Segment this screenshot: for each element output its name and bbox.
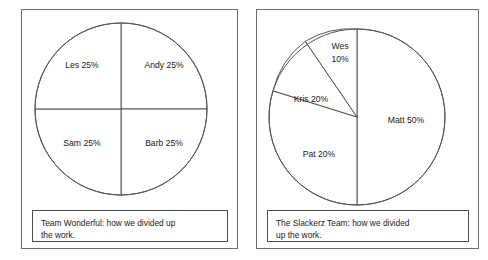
pie-label-wes-name: Wes xyxy=(331,41,348,51)
pie-label-wes-value: 10% xyxy=(331,54,349,64)
pie-label-sam: Sam 25% xyxy=(63,138,101,148)
caption-text: Team Wonderful: how we divided up the wo… xyxy=(41,217,219,241)
pie-label-barb: Barb 25% xyxy=(145,138,183,148)
pie-label-andy: Andy 25% xyxy=(144,60,184,70)
pie-label-matt: Matt 50% xyxy=(388,115,425,125)
pie-slice-sam xyxy=(35,109,121,195)
panel-team-wonderful: Les 25% Andy 25% Sam 25% Barb 25% Team W… xyxy=(21,9,238,249)
caption-team-wonderful: Team Wonderful: how we divided up the wo… xyxy=(32,210,228,242)
figure-root: Les 25% Andy 25% Sam 25% Barb 25% Team W… xyxy=(0,0,488,260)
pie-label-les: Les 25% xyxy=(65,60,99,70)
caption-slackerz-team: The Slackerz Team: how we divided up the… xyxy=(267,210,469,242)
pie-label-kris: Kris 20% xyxy=(294,94,329,104)
panel-slackerz-team: Matt 50% Pat 20% Kris 20% Wes 10% The Sl… xyxy=(256,9,479,249)
caption-text: The Slackerz Team: how we divided up the… xyxy=(276,217,460,241)
pie-label-pat: Pat 20% xyxy=(303,149,336,159)
pie-slice-barb xyxy=(121,109,207,195)
